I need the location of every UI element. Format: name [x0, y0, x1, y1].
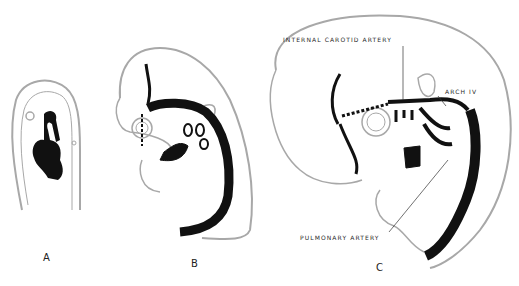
heart-a — [33, 111, 63, 180]
embryo-diagram — [0, 0, 519, 286]
vessels-c — [332, 74, 475, 256]
leader-lines — [389, 46, 448, 232]
panel-label-c: C — [376, 262, 383, 273]
panel-label-b: B — [191, 258, 198, 269]
label-pulmonary-artery: PULMONARY ARTERY — [300, 234, 380, 241]
label-arch-iv: ARCH IV — [445, 88, 477, 95]
vessels-b — [142, 64, 229, 232]
label-internal-carotid-artery: INTERNAL CAROTID ARTERY — [283, 36, 392, 43]
panel-label-a: A — [43, 252, 50, 263]
